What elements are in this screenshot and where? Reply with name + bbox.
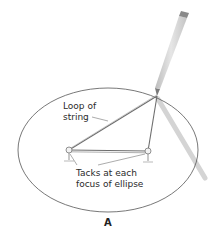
diagram-graphics xyxy=(0,0,219,235)
loop-label-line2: string xyxy=(63,112,96,123)
tack-right-icon xyxy=(143,148,153,162)
loop-label-line1: Loop of xyxy=(63,101,96,112)
ellipse-drawing-diagram: Loop of string Tacks at each focus of el… xyxy=(0,0,219,235)
tacks-leader-line-left xyxy=(70,154,77,165)
loop-of-string-label: Loop of string xyxy=(63,101,96,123)
pencil-shadow xyxy=(158,99,205,178)
panel-label: A xyxy=(104,217,112,228)
pencil-icon xyxy=(155,11,189,96)
tack-left-icon xyxy=(64,147,74,161)
tacks-label-line2: focus of ellipse xyxy=(76,179,143,190)
tacks-label: Tacks at each focus of ellipse xyxy=(76,168,143,190)
tacks-leader-line-right xyxy=(98,154,145,165)
tacks-label-line1: Tacks at each xyxy=(76,168,143,179)
